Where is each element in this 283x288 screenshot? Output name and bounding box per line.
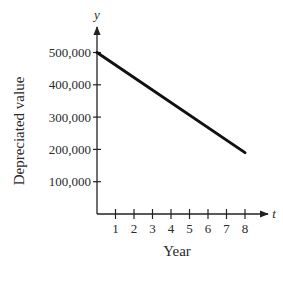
y-tick-label: 300,000 (49, 110, 91, 125)
x-tick-label: 8 (242, 221, 249, 236)
y-axis-variable: y (92, 7, 100, 22)
data-series (97, 53, 245, 153)
y-ticks: 100,000200,000300,000400,000500,000 (49, 45, 101, 189)
x-tick-label: 1 (112, 221, 119, 236)
x-tick-label: 5 (186, 221, 193, 236)
y-axis-title: Depreciated value (11, 76, 27, 185)
x-tick-label: 3 (149, 221, 156, 236)
depreciation-line (97, 53, 245, 153)
x-axis-variable: t (272, 206, 276, 221)
x-ticks: 12345678 (112, 209, 248, 236)
x-tick-label: 6 (205, 221, 212, 236)
x-tick-label: 7 (223, 221, 230, 236)
y-tick-label: 100,000 (49, 174, 91, 189)
x-tick-label: 2 (131, 221, 138, 236)
chart: y t 100,000200,000300,000400,000500,000 … (0, 0, 283, 288)
x-axis-title: Year (163, 243, 191, 259)
x-tick-label: 4 (168, 221, 175, 236)
y-tick-label: 200,000 (49, 142, 91, 157)
y-tick-label: 400,000 (49, 77, 91, 92)
y-tick-label: 500,000 (49, 45, 91, 60)
